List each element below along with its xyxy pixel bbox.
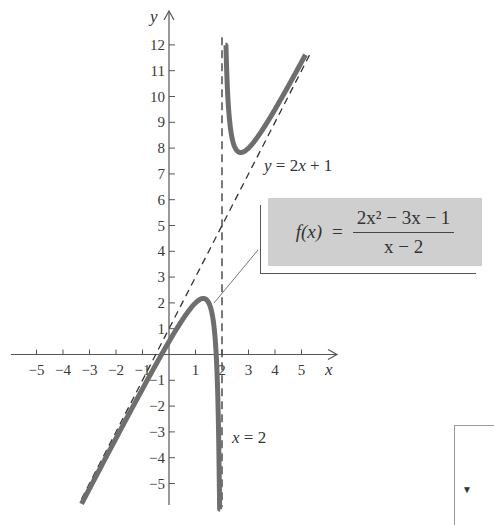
y-tick-label: 7 [158,166,166,182]
formula-equals: = [332,221,343,243]
y-axis-label: y [148,7,158,26]
x-tick-label: −2 [108,362,124,378]
y-tick-label: −4 [149,450,165,466]
x-tick-label: 1 [192,362,200,378]
y-tick-label: 8 [158,140,166,156]
y-tick-label: 12 [150,37,165,53]
y-tick-label: −3 [149,424,165,440]
formula-lhs: f(x) [296,221,322,243]
formula-frame-left [260,205,261,274]
x-axis-label: x [324,360,333,379]
x-tick-label: −5 [29,362,45,378]
partial-box [454,425,494,525]
y-tick-label: −2 [149,398,165,414]
y-tick-label: 9 [158,114,166,130]
y-tick-label: 10 [150,89,165,105]
formula-frame-bottom [260,273,476,274]
slant-asymptote-label: y = 2x + 1 [262,156,332,175]
formula-denominator: x − 2 [384,233,423,258]
y-tick-label: 4 [158,243,166,259]
ticks: −5−4−3−2−112345−5−4−3−2−1123456789101112 [29,37,306,492]
slant-asymptote-line [82,53,311,499]
x-tick-label: −4 [55,362,71,378]
x-tick-label: 4 [271,362,279,378]
function-formula: f(x) = 2x² − 3x − 1 x − 2 [268,198,482,266]
formula-leader-line [214,250,258,303]
y-tick-label: 11 [151,63,165,79]
formula-fraction: 2x² − 3x − 1 x − 2 [353,207,455,258]
x-tick-label: −3 [82,362,98,378]
y-tick-label: 1 [158,321,166,337]
partial-box-glyph: ▼ [462,484,472,495]
x-tick-label: 5 [298,362,306,378]
formula-lhs-text: f(x) [296,221,322,242]
y-tick-label: 3 [158,269,166,285]
formula-box: f(x) = 2x² − 3x − 1 x − 2 [268,198,482,266]
y-tick-label: 5 [158,218,166,234]
function-curves [82,45,306,509]
y-tick-label: 6 [158,192,166,208]
function-right-branch [225,45,305,153]
x-tick-label: 3 [245,362,253,378]
y-tick-label: 2 [158,295,166,311]
y-tick-label: −5 [149,476,165,492]
vertical-asymptote-label: x = 2 [231,428,266,447]
formula-numerator: 2x² − 3x − 1 [353,207,455,233]
